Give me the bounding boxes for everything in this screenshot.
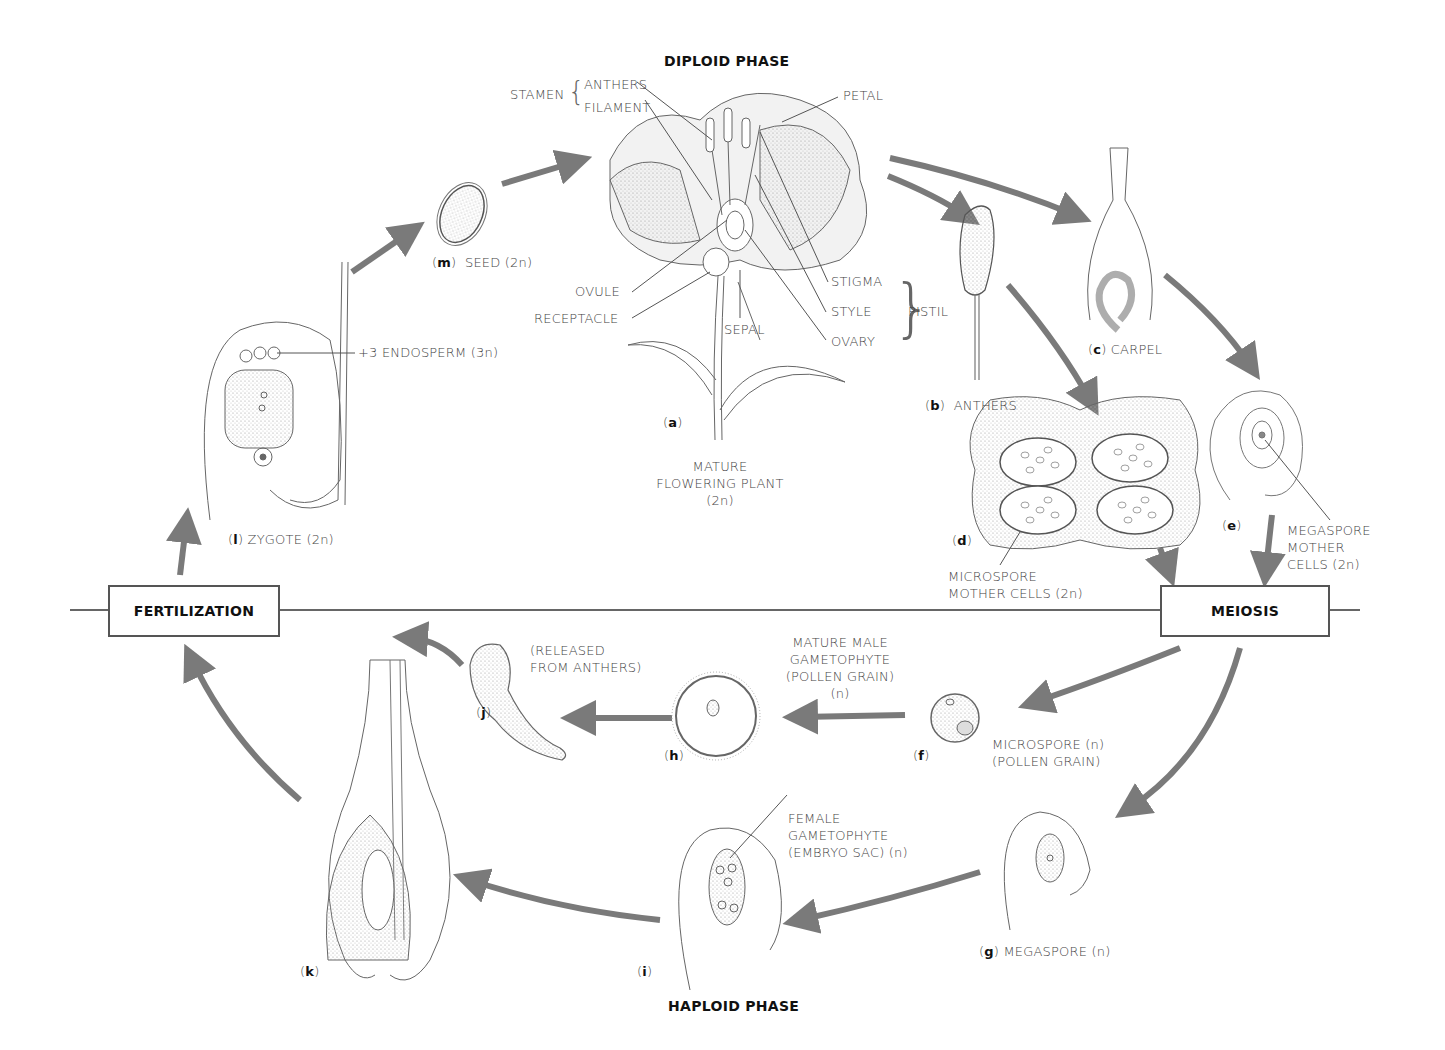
stage-h-letter: (h)	[664, 748, 684, 763]
stage-d-caption: MICROSPORE MOTHER CELLS (2n)	[948, 568, 1083, 602]
label-sepal: SEPAL	[724, 322, 765, 337]
stage-m-caption: (m) SEED (2n)	[432, 255, 532, 270]
ovule-e-drawing	[1210, 391, 1330, 520]
haploid-phase-title: HAPLOID PHASE	[668, 998, 799, 1014]
label-ovary: OVARY	[831, 334, 875, 349]
arrow-released-to-tube	[410, 638, 462, 665]
arrow-megaspore-to-embryosac	[800, 872, 980, 920]
stage-g-caption: (g) MEGASPORE (n)	[979, 944, 1111, 959]
stage-c-caption: (c) CARPEL	[1088, 342, 1162, 357]
mature-pollen-drawing	[672, 672, 760, 760]
arrow-anthers-to-sporangia	[1008, 285, 1090, 400]
embryo-sac-drawing	[679, 795, 787, 990]
label-filament: FILAMENT	[584, 100, 650, 115]
label-receptacle: RECEPTACLE	[534, 311, 619, 326]
anther-drawing	[960, 206, 994, 380]
label-anthers: ANTHERS	[584, 77, 647, 92]
seed-drawing	[431, 178, 493, 249]
arrow-meiosis-to-megaspore	[1130, 648, 1240, 808]
arrow-carpel-to-ovule	[1165, 275, 1250, 365]
arrow-sporangia-to-meiosis	[1160, 548, 1168, 570]
stage-f-caption: MICROSPORE (n) (POLLEN GRAIN)	[992, 736, 1104, 770]
leaf-left	[628, 342, 716, 395]
ovule-k-drawing	[326, 660, 450, 980]
stamen-brace: {	[568, 76, 585, 106]
arrow-ovule-to-meiosis	[1266, 515, 1272, 570]
stage-i-letter: (i)	[637, 964, 652, 979]
meiosis-box: MEIOSIS	[1160, 585, 1330, 637]
label-stamen: STAMEN	[510, 87, 564, 102]
arrow-zygote-to-seed	[352, 232, 410, 272]
arrow-plant-to-anthers	[888, 176, 965, 215]
microsporangia-drawing	[970, 397, 1200, 565]
stage-j-caption: (RELEASED FROM ANTHERS)	[530, 642, 642, 676]
label-style: STYLE	[831, 304, 872, 319]
diploid-phase-title: DIPLOID PHASE	[664, 53, 789, 69]
arrow-meiosis-to-microspore	[1035, 648, 1180, 702]
stage-e-letter: (e)	[1222, 518, 1242, 533]
arrow-seed-to-plant	[502, 162, 575, 184]
carpel-drawing	[1088, 148, 1153, 330]
stage-j-letter: (j)	[476, 705, 491, 720]
flower-drawing	[610, 93, 867, 276]
stem-drawing	[714, 276, 718, 440]
stage-f-letter: (f)	[913, 748, 929, 763]
arrow-k-to-fertilization	[192, 660, 300, 800]
microspore-drawing	[931, 694, 979, 742]
label-stigma: STIGMA	[831, 274, 882, 289]
stage-i-caption: FEMALE GAMETOPHYTE (EMBRYO SAC) (n)	[788, 810, 908, 861]
megaspore-ovule-drawing	[1004, 812, 1090, 930]
stage-a-letter: (a)	[663, 415, 683, 430]
fertilization-box: FERTILIZATION	[108, 585, 280, 637]
stage-l-caption: (l) ZYGOTE (2n)	[228, 532, 334, 547]
stage-b-caption: (b) ANTHERS	[925, 398, 1017, 413]
label-petal: PETAL	[843, 88, 883, 103]
label-endosperm: +3 ENDOSPERM (3n)	[358, 345, 498, 360]
arrow-microspore-to-mature-pollen	[800, 715, 905, 717]
stage-a-caption: MATURE FLOWERING PLANT (2n)	[640, 458, 800, 509]
arrow-embryosac-to-ovule-k	[470, 880, 660, 920]
stage-h-caption: MATURE MALE GAMETOPHYTE (POLLEN GRAIN) (…	[770, 634, 910, 702]
stage-k-letter: (k)	[300, 964, 319, 979]
leaf-right	[720, 366, 845, 420]
arrow-fertilization-to-zygote	[180, 525, 186, 575]
stage-d-letter: (d)	[952, 533, 972, 548]
label-ovule: OVULE	[575, 284, 620, 299]
zygote-ovule-drawing	[204, 262, 355, 520]
label-pistil: PISTIL	[908, 304, 948, 319]
stage-e-caption: MEGASPORE MOTHER CELLS (2n)	[1287, 522, 1371, 573]
